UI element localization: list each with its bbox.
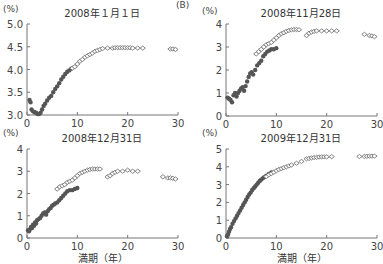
series-open (264, 154, 377, 179)
data-point (253, 68, 257, 72)
series-filled (225, 46, 278, 104)
x-axis-label: 満期（年） (277, 252, 327, 264)
y-unit-label: (%) (3, 4, 19, 14)
x-tick-label: 10 (270, 119, 283, 130)
y-unit-label: (%) (3, 128, 19, 138)
x-tick-label: 30 (172, 118, 185, 129)
chart-panel-3: 0123401020302008年12月31日(%)満期（年） (3, 128, 184, 264)
data-point (294, 161, 299, 165)
data-point (135, 169, 140, 173)
y-tick-label: 3 (216, 42, 222, 53)
data-point (245, 79, 249, 83)
chart-title: 2008年１月１日 (64, 7, 139, 19)
x-tick-label: 0 (223, 241, 229, 252)
y-tick-label: 3 (17, 166, 23, 177)
chart-title: 2008年11月28日 (261, 7, 342, 19)
data-point (28, 100, 32, 104)
data-point (125, 168, 130, 172)
y-tick-label: 0 (216, 233, 222, 244)
data-point (242, 89, 246, 93)
data-point (259, 59, 263, 63)
y-tick-label: 1 (216, 215, 222, 226)
series-filled (225, 170, 274, 238)
data-point (251, 72, 255, 76)
series-open (254, 27, 377, 56)
x-tick-label: 10 (270, 241, 283, 252)
data-point (243, 84, 247, 88)
y-tick-label: 1 (17, 211, 23, 222)
x-axis-label: 満期（年） (78, 252, 128, 264)
y-tick-label: 4 (216, 162, 222, 173)
data-point (160, 175, 165, 179)
data-point (362, 32, 367, 36)
x-tick-label: 30 (371, 119, 383, 130)
data-point (329, 155, 334, 159)
data-point (334, 29, 339, 33)
x-tick-label: 20 (121, 241, 134, 252)
data-point (120, 169, 125, 173)
y-unit-label: (%) (202, 128, 218, 138)
chart-title: 2008年12月31日 (62, 132, 143, 144)
data-point (274, 46, 278, 50)
y-tick-label: 5.0 (7, 19, 23, 30)
x-tick-label: 0 (24, 118, 30, 129)
y-tick-label: 2 (216, 197, 222, 208)
series-open (70, 46, 178, 71)
chart-panel-2: 0123401020302008年11月28日(%) (202, 6, 383, 130)
y-tick-label: 3.0 (7, 110, 23, 121)
x-tick-label: 30 (371, 241, 383, 252)
x-tick-label: 0 (223, 119, 229, 130)
y-tick-label: 0 (17, 233, 23, 244)
x-tick-label: 10 (71, 241, 84, 252)
y-unit-label: (%) (202, 6, 218, 16)
y-tick-label: 4 (17, 144, 23, 155)
y-tick-label: 4 (216, 19, 222, 30)
chart-grid: 3.03.54.04.55.001020302008年１月１日(%)012340… (0, 0, 383, 264)
chart-title: 2009年12月31日 (261, 132, 342, 144)
data-point (75, 186, 79, 190)
x-tick-label: 0 (24, 241, 30, 252)
y-tick-label: 1 (216, 88, 222, 99)
data-point (140, 46, 145, 50)
x-tick-label: 20 (320, 119, 333, 130)
x-tick-label: 20 (320, 241, 333, 252)
series-filled (26, 186, 80, 234)
y-tick-label: 4.5 (7, 42, 23, 53)
y-tick-label: 4.0 (7, 65, 23, 76)
y-tick-label: 3 (216, 180, 222, 191)
x-tick-label: 10 (71, 118, 84, 129)
data-point (230, 100, 234, 104)
x-tick-label: 30 (172, 241, 185, 252)
data-point (299, 159, 304, 163)
chart-panel-1: 3.03.54.04.55.001020302008年１月１日(%) (3, 4, 184, 129)
y-tick-label: 2 (17, 189, 23, 200)
y-tick-label: 3.5 (7, 87, 23, 98)
chart-panel-4: 01234501020302009年12月31日(%)満期（年） (202, 128, 383, 264)
series-filled (27, 66, 73, 116)
y-tick-label: 5 (216, 144, 222, 155)
series-open (55, 167, 178, 191)
y-tick-label: 0 (216, 111, 222, 122)
x-tick-label: 20 (121, 118, 134, 129)
y-tick-label: 2 (216, 65, 222, 76)
